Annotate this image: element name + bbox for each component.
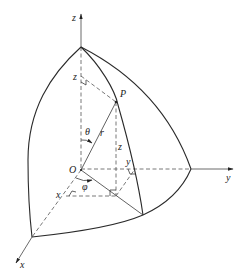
z-on-axis-label: z	[72, 71, 77, 82]
y-axis-label: y	[225, 172, 231, 183]
origin-point	[80, 169, 82, 171]
projection-line	[81, 170, 143, 215]
point-p	[115, 101, 118, 104]
x-axis-label: x	[19, 259, 25, 270]
x-axis	[16, 170, 81, 263]
origin-label: O	[69, 164, 76, 175]
theta-label: θ	[85, 126, 90, 137]
phi-label: φ	[82, 181, 88, 192]
z-vertical-label: z	[117, 141, 122, 152]
y-component-label: y	[125, 156, 131, 167]
point-p-label: P	[119, 88, 126, 99]
z-axis-label: z	[71, 12, 76, 23]
theta-angle-arc	[81, 140, 92, 143]
x-component-label: x	[55, 189, 61, 200]
spherical-coordinates-diagram: z y x O P r θ φ z z y x	[0, 0, 248, 278]
radius-label: r	[100, 127, 104, 138]
